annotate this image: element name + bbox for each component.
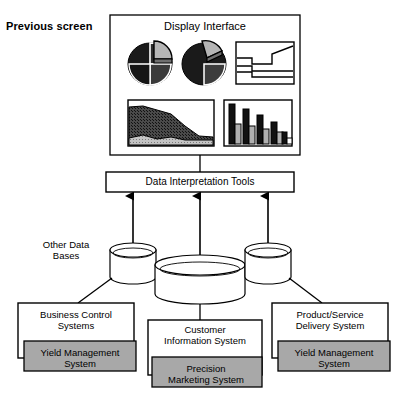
previous-screen-label: Previous screen [6,20,93,33]
yms2-line2: System [318,358,350,369]
yms1-line1: Yield Management [41,347,120,358]
line-chart [236,42,294,84]
database-cylinder-right [245,243,291,284]
pms-line2: Marketing System [168,374,244,385]
database-cylinder-center [155,255,245,304]
precision-marketing-system-label: Precision Marketing System [156,364,256,386]
yms1-line2: System [64,358,96,369]
product-service-delivery-system-label: Product/Service Delivery System [276,310,384,332]
business-control-systems-label: Business Control Systems [22,310,130,332]
data-interpretation-tools-label: Data Interpretation Tools [106,176,294,188]
cis-line2: Information System [164,335,246,346]
customer-information-system-label: Customer Information System [152,325,258,347]
cis-line1: Customer [184,324,225,335]
other-databases-line2: Bases [53,250,79,261]
yms2-line1: Yield Management [295,347,374,358]
display-interface-title: Display Interface [110,20,300,33]
other-databases-line1: Other Data [43,239,89,250]
area-chart [128,100,214,146]
bcs-line2: Systems [58,320,94,331]
yield-management-system-label-right: Yield Management System [282,348,386,370]
database-cylinder-left [110,243,156,284]
bcs-line1: Business Control [40,309,112,320]
yield-management-system-label-left: Yield Management System [28,348,132,370]
psds-line1: Product/Service [296,309,363,320]
other-databases-label: Other Data Bases [28,240,104,262]
psds-line2: Delivery System [296,320,365,331]
pms-line1: Precision [186,363,225,374]
bar-chart [224,100,292,146]
